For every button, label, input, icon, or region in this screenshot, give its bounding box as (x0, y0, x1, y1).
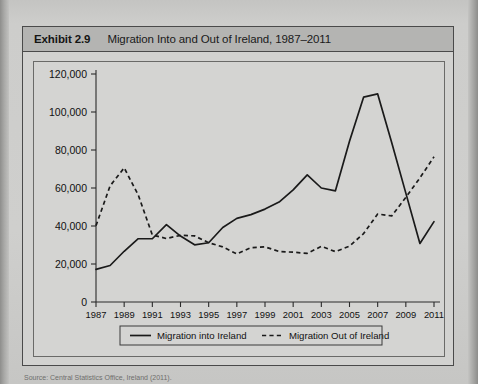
chart-legend: Migration into IrelandMigration Out of I… (120, 326, 389, 345)
x-axis-tick-label: 2005 (339, 309, 360, 320)
exhibit-number: Exhibit 2.9 (34, 33, 90, 45)
source-note: Source: Central Statistics Office, Irela… (24, 374, 444, 384)
x-axis-tick-label: 1993 (170, 309, 191, 320)
x-axis-tick-label: 1987 (86, 309, 107, 320)
x-axis-tick-label: 2003 (311, 309, 332, 320)
y-axis-tick-label: 80,000 (55, 144, 87, 156)
y-axis-tick-label: 60,000 (55, 182, 87, 194)
legend-label: Migration Out of Ireland (289, 330, 389, 341)
y-axis-tick-label: 20,000 (55, 258, 87, 270)
migration-line-chart: 020,00040,00060,00080,000100,000120,000 … (34, 62, 444, 356)
exhibit-title: Migration Into and Out of Ireland, 1987–… (107, 33, 331, 45)
x-axis-tick-label: 1989 (114, 309, 135, 320)
exhibit-container: Exhibit 2.9 Migration Into and Out of Ir… (22, 26, 454, 366)
book-spine-right-shadow (468, 0, 478, 384)
y-axis-ticks: 020,00040,00060,00080,000100,000120,000 (49, 68, 96, 308)
legend-label: Migration into Ireland (157, 330, 247, 341)
series-line-migration-into-ireland (96, 94, 434, 269)
x-axis-tick-label: 1999 (255, 309, 276, 320)
x-axis-tick-label: 2007 (367, 309, 388, 320)
x-axis-tick-label: 1991 (142, 309, 163, 320)
x-axis-ticks: 1987198919911993199519971999200120032005… (86, 302, 444, 320)
chart-panel: 020,00040,00060,00080,000100,000120,000 … (33, 61, 445, 357)
x-axis-tick-label: 2009 (395, 309, 416, 320)
y-axis-tick-label: 120,000 (49, 68, 87, 80)
exhibit-header: Exhibit 2.9 Migration Into and Out of Ir… (23, 27, 453, 52)
y-axis-tick-label: 100,000 (49, 106, 87, 118)
y-axis-tick-label: 0 (81, 296, 87, 308)
x-axis-tick-label: 2001 (283, 309, 304, 320)
x-axis-tick-label: 2011 (424, 309, 444, 320)
x-axis-tick-label: 1997 (226, 309, 247, 320)
y-axis-tick-label: 40,000 (55, 220, 87, 232)
x-axis-tick-label: 1995 (198, 309, 219, 320)
page-root: Exhibit 2.9 Migration Into and Out of Ir… (0, 0, 478, 384)
book-spine-left-shadow (0, 0, 9, 384)
